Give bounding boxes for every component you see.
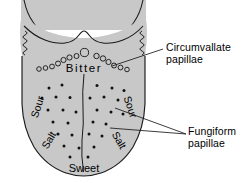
fungiform-papilla bbox=[48, 87, 51, 90]
fungiform-papilla bbox=[93, 146, 96, 149]
fungiform-papilla bbox=[67, 122, 70, 125]
fungiform-papilla bbox=[87, 156, 90, 159]
annotation-fungiform-papillae: Fungiform papillae bbox=[188, 126, 236, 149]
fungiform-papilla bbox=[52, 121, 55, 124]
annotation-circumvallate-line2: papillae bbox=[166, 54, 231, 66]
fungiform-papilla bbox=[117, 99, 120, 102]
taste-label-sweet: Sweet bbox=[69, 162, 100, 174]
fungiform-papilla bbox=[92, 121, 95, 124]
fungiform-papilla bbox=[78, 147, 81, 150]
fungiform-papilla bbox=[62, 109, 65, 112]
fungiform-papilla bbox=[75, 111, 78, 114]
fungiform-papilla bbox=[96, 109, 99, 112]
fungiform-papilla bbox=[88, 133, 91, 136]
fungiform-papilla bbox=[71, 134, 74, 137]
fungiform-papilla bbox=[89, 97, 92, 100]
fungiform-papilla bbox=[63, 145, 66, 148]
pharynx-fill bbox=[21, 0, 146, 30]
tongue-diagram: Bitter Sour Sour Salt Salt Sweet Circumv… bbox=[0, 0, 249, 183]
fungiform-papilla bbox=[47, 109, 50, 112]
tongue-illustration: Bitter Sour Sour Salt Salt Sweet bbox=[0, 0, 249, 183]
annotation-fungiform-line2: papillae bbox=[188, 138, 236, 150]
annotation-fungiform-line1: Fungiform bbox=[188, 125, 236, 137]
fungiform-papilla bbox=[96, 84, 99, 87]
fungiform-papilla bbox=[123, 89, 126, 92]
fungiform-papilla bbox=[122, 113, 125, 116]
fungiform-papilla bbox=[69, 156, 72, 159]
fungiform-papilla bbox=[110, 111, 113, 114]
fungiform-papilla bbox=[101, 135, 104, 138]
taste-label-bitter: Bitter bbox=[66, 62, 102, 74]
fungiform-papilla bbox=[61, 84, 64, 87]
fungiform-papilla bbox=[105, 123, 108, 126]
annotation-circumvallate-line1: Circumvallate bbox=[166, 41, 231, 53]
fungiform-papilla bbox=[55, 96, 58, 99]
fungiform-papilla bbox=[111, 87, 114, 90]
annotation-circumvallate-papillae: Circumvallate papillae bbox=[166, 42, 231, 65]
fungiform-papilla bbox=[69, 96, 72, 99]
fungiform-papilla bbox=[103, 96, 106, 99]
